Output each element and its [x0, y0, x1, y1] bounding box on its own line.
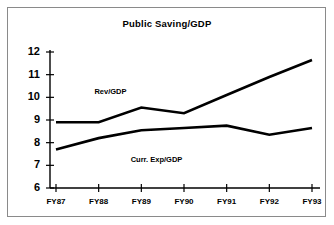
x-axis-tick-label: FY90 [161, 197, 207, 206]
y-axis-tick-label: 10 [18, 91, 40, 102]
y-axis-tick-label: 7 [18, 159, 40, 170]
y-axis-tick-label: 11 [18, 69, 40, 80]
series-annotation-1: Rev/GDP [94, 87, 126, 96]
y-axis-tick-label: 9 [18, 114, 40, 125]
x-axis-tick-label: FY91 [204, 197, 250, 206]
x-axis-tick-label: FY88 [76, 197, 122, 206]
y-axis-tick-label: 8 [18, 137, 40, 148]
y-axis-tick-label: 6 [18, 182, 40, 193]
x-axis-tick-label: FY89 [118, 197, 164, 206]
x-axis-tick-label: FY93 [289, 197, 334, 206]
series-annotation-2: Curr. Exp/GDP [131, 155, 183, 164]
x-axis-tick-label: FY92 [246, 197, 292, 206]
plot-area [0, 0, 334, 225]
series-line-2 [56, 126, 312, 150]
x-axis-tick-label: FY87 [33, 197, 79, 206]
series-group [56, 60, 312, 150]
y-axis-tick-label: 12 [18, 46, 40, 57]
chart-figure: Public Saving/GDP 6789101112 FY87FY88FY8… [0, 0, 334, 225]
